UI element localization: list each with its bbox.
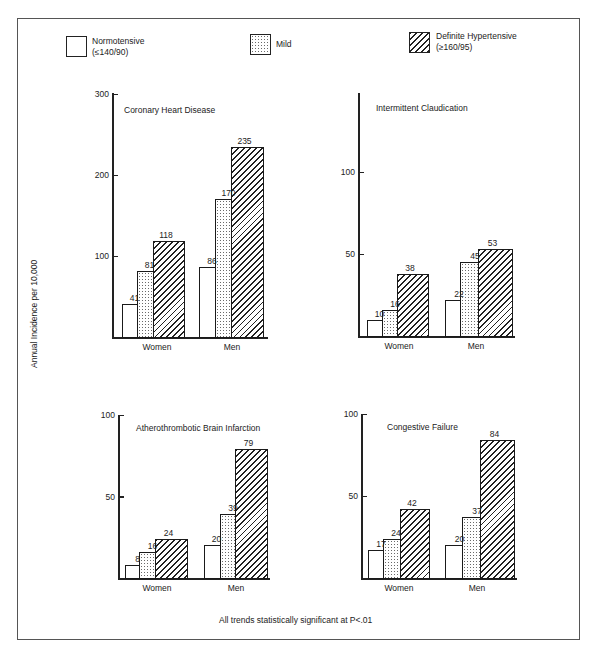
bar-men-hypertensive [235, 449, 268, 579]
legend-mild-text: Mild [276, 39, 292, 50]
y-tick [118, 496, 124, 498]
y-tick [358, 254, 364, 256]
bar-value-label: 170 [217, 188, 241, 198]
bar-value-label: 53 [481, 238, 505, 248]
bar-value-label: 84 [483, 429, 507, 439]
y-tick-label: 100 [334, 409, 358, 419]
x-category-label: Men [451, 341, 501, 351]
legend-label-mild: Mild [276, 39, 292, 50]
legend-swatch-hypertensive [409, 32, 430, 53]
legend-swatch-mild [250, 34, 271, 55]
bar-value-label: 45 [463, 251, 487, 261]
chart-title: Coronary Heart Disease [124, 105, 215, 115]
y-tick-label: 100 [91, 410, 115, 420]
x-category-label: Men [207, 342, 257, 352]
y-tick-label: 50 [334, 491, 358, 501]
bar-value-label: 86 [200, 256, 224, 266]
y-tick [361, 496, 367, 498]
legend-label-normotensive: Normotensive (≤140/90) [92, 36, 144, 58]
bar-value-label: 39 [221, 503, 245, 513]
x-category-label: Women [374, 583, 424, 593]
bar-value-label: 10 [368, 309, 392, 319]
legend-normotensive-range: (≤140/90) [92, 47, 144, 58]
y-tick-label: 300 [85, 89, 109, 99]
chart-title: Atherothrombotic Brain Infarction [136, 423, 260, 433]
bar-value-label: 22 [447, 289, 471, 299]
y-axis-line [112, 93, 114, 338]
bar-value-label: 16 [383, 299, 407, 309]
bar-men-hypertensive [231, 147, 264, 338]
bar-value-label: 20 [205, 534, 229, 544]
bar-value-label: 24 [384, 528, 408, 538]
y-tick-label: 200 [85, 170, 109, 180]
bar-value-label: 24 [157, 528, 181, 538]
bar-value-label: 118 [154, 230, 178, 240]
legend-normotensive-text: Normotensive [92, 36, 144, 47]
y-tick [112, 256, 118, 258]
legend-hypertensive-range: (≥160/95) [436, 42, 517, 53]
bar-men-hypertensive [478, 249, 513, 337]
y-tick [358, 172, 364, 174]
bar-value-label: 37 [465, 506, 489, 516]
bar-value-label: 235 [233, 136, 257, 146]
y-tick-label: 100 [85, 251, 109, 261]
bar-value-label: 42 [400, 498, 424, 508]
y-tick [112, 94, 118, 96]
bar-value-label: 79 [237, 438, 261, 448]
y-tick [112, 175, 118, 177]
footnote: All trends statistically significant at … [219, 615, 372, 625]
bar-value-label: 16 [141, 541, 165, 551]
chart-title: Intermittent Claudication [376, 103, 468, 113]
bar-value-label: 20 [448, 534, 472, 544]
x-category-label: Women [374, 341, 424, 351]
y-axis-label: Annual Incidence per 10,000 [29, 260, 39, 368]
bar-value-label: 41 [123, 293, 147, 303]
y-tick [361, 414, 367, 416]
x-category-label: Men [211, 583, 261, 593]
bar-value-label: 17 [369, 539, 393, 549]
bar-value-label: 38 [398, 263, 422, 273]
x-category-label: Women [132, 342, 182, 352]
x-category-label: Women [132, 583, 182, 593]
bar-women-hypertensive [153, 241, 185, 338]
y-tick-label: 50 [331, 249, 355, 259]
legend-swatch-normotensive [66, 36, 87, 57]
bar-value-label: 8 [126, 554, 150, 564]
chart-title: Congestive Failure [387, 422, 458, 432]
x-category-label: Men [452, 583, 502, 593]
bar-women-hypertensive [400, 509, 430, 579]
y-tick-label: 100 [331, 167, 355, 177]
bar-value-label: 81 [138, 260, 162, 270]
y-tick [118, 415, 124, 417]
legend-hypertensive-text: Definite Hypertensive [436, 31, 517, 42]
legend-label-hypertensive: Definite Hypertensive (≥160/95) [436, 31, 517, 53]
y-tick-label: 50 [91, 492, 115, 502]
y-axis-line [358, 93, 360, 337]
